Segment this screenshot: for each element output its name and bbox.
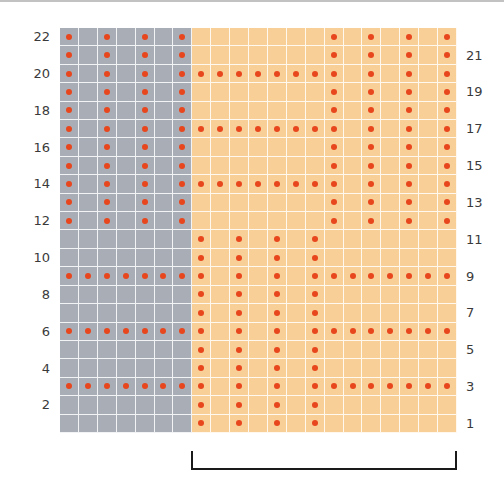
stitch-cell	[192, 175, 211, 193]
purl-dot-icon	[368, 218, 374, 224]
stitch-cell	[173, 304, 192, 322]
purl-dot-icon	[331, 328, 337, 334]
stitch-cell	[98, 194, 117, 212]
stitch-cell	[287, 175, 306, 193]
purl-dot-icon	[331, 144, 337, 150]
stitch-cell	[362, 212, 381, 230]
purl-dot-icon	[179, 126, 185, 132]
stitch-cell	[211, 102, 230, 120]
purl-dot-icon	[444, 328, 450, 334]
stitch-cell	[438, 83, 457, 101]
purl-dot-icon	[406, 181, 412, 187]
stitch-cell	[117, 83, 136, 101]
stitch-cell	[400, 378, 419, 396]
stitch-cell	[325, 267, 344, 285]
stitch-cell	[211, 341, 230, 359]
stitch-cell	[173, 341, 192, 359]
purl-dot-icon	[406, 328, 412, 334]
purl-dot-icon	[331, 163, 337, 169]
stitch-cell	[344, 286, 363, 304]
purl-dot-icon	[274, 310, 280, 316]
stitch-cell	[419, 267, 438, 285]
purl-dot-icon	[66, 71, 72, 77]
stitch-cell	[136, 175, 155, 193]
stitch-cell	[268, 28, 287, 46]
purl-dot-icon	[350, 328, 356, 334]
purl-dot-icon	[312, 383, 318, 389]
stitch-cell	[230, 138, 249, 156]
stitch-cell	[419, 230, 438, 248]
stitch-cell	[230, 267, 249, 285]
stitch-cell	[381, 359, 400, 377]
stitch-cell	[155, 230, 174, 248]
stitch-cell	[249, 341, 268, 359]
stitch-cell	[381, 304, 400, 322]
stitch-cell	[419, 102, 438, 120]
stitch-cell	[211, 267, 230, 285]
stitch-cell	[117, 28, 136, 46]
stitch-cell	[362, 415, 381, 433]
purl-dot-icon	[274, 420, 280, 426]
stitch-cell	[419, 396, 438, 414]
stitch-cell	[211, 323, 230, 341]
stitch-cell	[306, 230, 325, 248]
purl-dot-icon	[236, 420, 242, 426]
stitch-cell	[211, 65, 230, 83]
stitch-cell	[419, 28, 438, 46]
stitch-cell	[249, 120, 268, 138]
stitch-cell	[155, 102, 174, 120]
stitch-cell	[117, 157, 136, 175]
purl-dot-icon	[142, 328, 148, 334]
stitch-cell	[306, 286, 325, 304]
stitch-cell	[381, 230, 400, 248]
stitch-cell	[344, 359, 363, 377]
purl-dot-icon	[425, 328, 431, 334]
stitch-cell	[287, 138, 306, 156]
purl-dot-icon	[66, 328, 72, 334]
purl-dot-icon	[312, 420, 318, 426]
stitch-cell	[155, 286, 174, 304]
purl-dot-icon	[368, 52, 374, 58]
purl-dot-icon	[274, 71, 280, 77]
purl-dot-icon	[85, 383, 91, 389]
stitch-cell	[117, 120, 136, 138]
stitch-cell	[211, 212, 230, 230]
stitch-cell	[60, 138, 79, 156]
stitch-cell	[344, 157, 363, 175]
stitch-cell	[249, 359, 268, 377]
row-number-label: 4	[22, 362, 50, 376]
stitch-cell	[155, 83, 174, 101]
purl-dot-icon	[236, 126, 242, 132]
stitch-cell	[192, 359, 211, 377]
stitch-cell	[60, 120, 79, 138]
stitch-cell	[98, 396, 117, 414]
stitch-cell	[60, 396, 79, 414]
stitch-cell	[173, 194, 192, 212]
purl-dot-icon	[142, 126, 148, 132]
purl-dot-icon	[406, 199, 412, 205]
stitch-cell	[211, 194, 230, 212]
purl-dot-icon	[444, 89, 450, 95]
purl-dot-icon	[368, 34, 374, 40]
stitch-cell	[60, 102, 79, 120]
stitch-cell	[230, 286, 249, 304]
purl-dot-icon	[104, 199, 110, 205]
purl-dot-icon	[160, 273, 166, 279]
stitch-cell	[344, 102, 363, 120]
row-number-label: 15	[466, 159, 496, 173]
stitch-cell	[287, 46, 306, 64]
stitch-cell	[98, 175, 117, 193]
purl-dot-icon	[444, 71, 450, 77]
stitch-cell	[400, 46, 419, 64]
stitch-cell	[173, 212, 192, 230]
stitch-cell	[155, 212, 174, 230]
purl-dot-icon	[198, 236, 204, 242]
stitch-cell	[381, 396, 400, 414]
stitch-cell	[192, 378, 211, 396]
stitch-cell	[211, 46, 230, 64]
stitch-cell	[60, 194, 79, 212]
purl-dot-icon	[293, 126, 299, 132]
stitch-cell	[400, 304, 419, 322]
stitch-cell	[268, 194, 287, 212]
purl-dot-icon	[104, 144, 110, 150]
